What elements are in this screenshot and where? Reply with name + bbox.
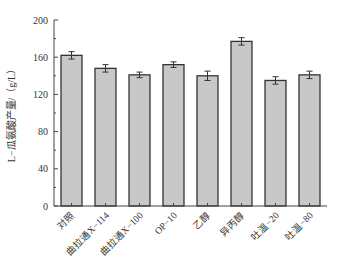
y-axis-label: L−瓜氨酸产量/（g/L） [5, 64, 17, 162]
x-axis: 对照曲拉通X−114曲拉通X−100OP−10乙醇异丙醇吐温−20吐温−80 [54, 203, 327, 257]
x-tick-label: 异丙醇 [218, 210, 247, 239]
bar-group [163, 62, 184, 206]
bar-group [129, 72, 150, 206]
bar [231, 41, 252, 206]
y-tick-label: 40 [38, 163, 48, 174]
y-axis: 04080120160200 [33, 15, 58, 212]
bar [61, 55, 82, 206]
bar [299, 75, 320, 206]
x-tick-label: OP−10 [153, 210, 179, 236]
x-tick-label: 乙醇 [191, 210, 213, 232]
bar-group [95, 65, 116, 206]
x-tick-label: 对照 [55, 210, 77, 232]
bar [265, 80, 286, 206]
x-tick-label: 吐温−80 [283, 210, 315, 242]
bars [61, 38, 320, 206]
y-tick-label: 160 [33, 52, 48, 63]
bar [197, 76, 218, 206]
bar-group [197, 71, 218, 206]
bar [163, 65, 184, 206]
bar-group [299, 71, 320, 206]
bar-group [231, 38, 252, 206]
bar-group [61, 52, 82, 206]
y-tick-label: 200 [33, 15, 48, 26]
y-tick-label: 0 [43, 201, 48, 212]
bar [95, 68, 116, 206]
x-tick-label: 吐温−20 [249, 210, 281, 242]
bar [129, 75, 150, 206]
bar-chart: 04080120160200 对照曲拉通X−114曲拉通X−100OP−10乙醇… [0, 0, 344, 276]
y-tick-label: 80 [38, 126, 48, 137]
y-tick-label: 120 [33, 89, 48, 100]
bar-group [265, 77, 286, 206]
